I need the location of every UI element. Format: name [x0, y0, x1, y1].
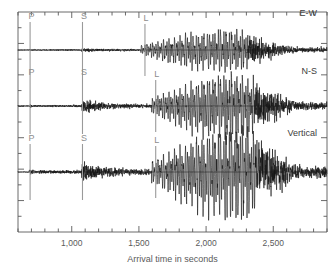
- phase-label-l-vertical: L: [154, 135, 159, 145]
- trace-label-n-s: N-S: [302, 66, 318, 76]
- phase-label-s-e-w: S: [81, 11, 87, 21]
- trace-label-e-w: E-W: [300, 8, 318, 18]
- seismic-traces: [18, 29, 327, 220]
- x-tick-label: 1,000: [61, 238, 83, 248]
- phase-label-l-n-s: L: [154, 69, 159, 79]
- trace-label-vertical: Vertical: [287, 128, 317, 138]
- seismogram-plot: PSLPSLPSLE-WN-SVertical1,0001,5002,0002,…: [0, 0, 336, 277]
- phase-label-s-vertical: S: [81, 133, 87, 143]
- x-axis-label: Arrival time in seconds: [127, 254, 218, 264]
- x-tick-label: 2,000: [195, 238, 217, 248]
- x-tick-label: 2,500: [263, 238, 285, 248]
- seismogram-figure: PSLPSLPSLE-WN-SVertical1,0001,5002,0002,…: [0, 0, 336, 277]
- phase-label-l-e-w: L: [143, 13, 148, 23]
- x-tick-label: 1,500: [128, 238, 150, 248]
- phase-label-p-vertical: P: [29, 133, 35, 143]
- phase-label-s-n-s: S: [81, 67, 87, 77]
- phase-label-p-e-w: P: [29, 11, 35, 21]
- phase-label-p-n-s: P: [29, 67, 35, 77]
